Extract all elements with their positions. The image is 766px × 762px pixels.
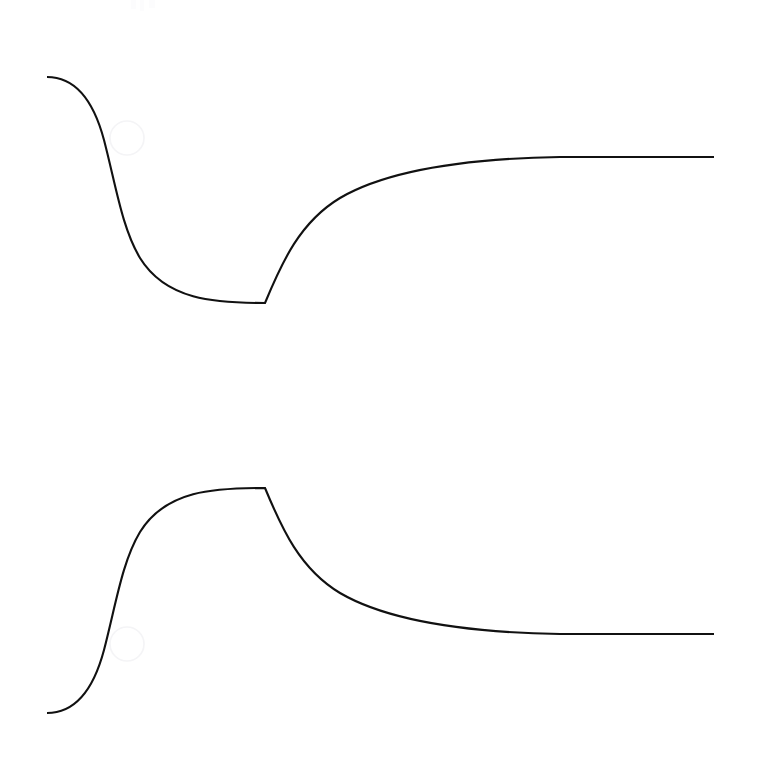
faint-mark-1 (131, 0, 136, 9)
faint-mark-3 (149, 0, 155, 8)
figure-background (0, 0, 766, 762)
figure-canvas (0, 0, 766, 762)
line-figure (0, 0, 766, 762)
faint-mark-2 (140, 0, 144, 11)
